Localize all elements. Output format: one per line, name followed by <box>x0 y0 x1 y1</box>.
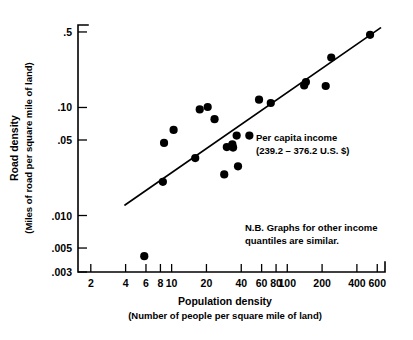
y-axis-tick-marks <box>78 32 87 272</box>
data-point <box>210 115 218 123</box>
y-axis-title: Road density <box>8 115 20 181</box>
x-tick-label: 8 <box>158 277 164 289</box>
data-point <box>220 170 228 178</box>
data-point <box>196 105 204 113</box>
y-tick-label: .10 <box>57 101 72 113</box>
x-tick-label: 40 <box>235 277 247 289</box>
y-tick-label: .003 <box>52 266 73 278</box>
y-axis-subtitle: (Miles of road per square mile of land) <box>23 62 34 234</box>
data-point <box>160 139 168 147</box>
data-point <box>170 126 178 134</box>
chart-figure: .5.10.05.010.005.003 2468102040608010020… <box>0 0 413 340</box>
x-tick-label: 2 <box>88 277 94 289</box>
y-tick-label: .5 <box>63 26 72 38</box>
x-tick-label: 20 <box>201 277 213 289</box>
x-axis-subtitle: (Number of people per square mile of lan… <box>128 310 322 321</box>
x-tick-label: 600 <box>368 277 386 289</box>
data-point <box>204 103 212 111</box>
x-tick-label: 100 <box>279 277 297 289</box>
per-capita-income-note-line2: (239.2 – 376.2 U.S. $) <box>256 145 349 156</box>
scatter-plot: .5.10.05.010.005.003 2468102040608010020… <box>0 0 413 340</box>
x-tick-label: 4 <box>123 277 129 289</box>
y-axis-tick-labels: .5.10.05.010.005.003 <box>52 26 73 278</box>
data-point <box>234 162 242 170</box>
x-tick-label: 200 <box>313 277 331 289</box>
y-tick-label: .05 <box>57 134 72 146</box>
data-point <box>366 31 374 39</box>
data-point <box>302 78 310 86</box>
data-point <box>140 252 148 260</box>
data-point <box>191 154 199 162</box>
per-capita-income-note-line1: Per capita income <box>256 132 337 143</box>
data-point <box>322 82 330 90</box>
data-point <box>229 144 237 152</box>
data-point <box>267 99 275 107</box>
x-axis-tick-marks <box>91 264 377 272</box>
x-axis-title: Population density <box>178 295 272 307</box>
x-axis-tick-labels: 24681020406080100200400600 <box>88 277 386 289</box>
x-tick-label: 60 <box>256 277 268 289</box>
x-tick-label: 400 <box>348 277 366 289</box>
data-point <box>245 131 253 139</box>
y-tick-label: .005 <box>52 242 73 254</box>
x-tick-label: 6 <box>143 277 149 289</box>
x-tick-label: 10 <box>166 277 178 289</box>
data-point <box>233 131 241 139</box>
data-point <box>159 178 167 186</box>
data-point <box>255 96 263 104</box>
quantiles-note-line2: quantiles are similar. <box>245 235 339 246</box>
data-point <box>327 53 335 61</box>
y-tick-label: .010 <box>52 210 73 222</box>
quantiles-note-line1: N.B. Graphs for other income <box>245 222 378 233</box>
